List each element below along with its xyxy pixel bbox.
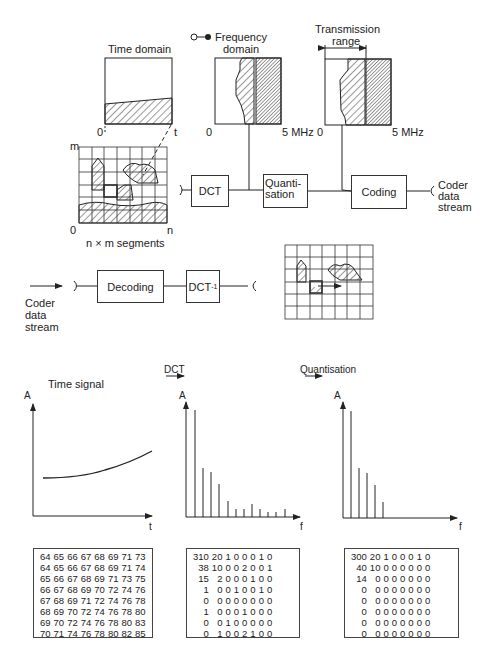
transmission-xend: 5 MHz [392,126,424,138]
matrix-cell: 65 [51,562,65,573]
matrix-cell: 0 [264,606,272,617]
matrix-cell: 0 [231,606,239,617]
matrix-cell: 0 [422,584,430,595]
matrix-cell: 80 [105,628,119,639]
matrix-cell: 71 [78,595,92,606]
matrix-cell: 2 [239,628,247,639]
matrix-cell: 0 [389,573,397,584]
quant-arrow-label: Quantisation [300,364,356,376]
matrix-cell: 0 [231,573,239,584]
coder-in-line3: stream [25,321,59,333]
matrix-cell: 0 [222,606,230,617]
matrix-cell: 71 [118,551,132,562]
matrix-cell: 0 [348,628,367,639]
matrix-cell: 0 [247,617,255,628]
matrix-cell: 74 [118,584,132,595]
matrix-row: 140000000 [348,573,430,584]
legend-label-line1: Frequency [215,31,267,43]
matrix-row: 00000000 [348,584,430,595]
matrix-cell: 72 [105,584,119,595]
matrix-cell: 310 [190,551,209,562]
matrix-cell: 74 [78,617,92,628]
matrix-cell: 0 [380,573,388,584]
matrix-cell: 2 [239,562,247,573]
matrix-cell: 0 [264,551,272,562]
matrix-cell: 66 [37,584,51,595]
matrix-cell: 72 [64,617,78,628]
matrix-cell: 0 [422,606,430,617]
transmission-title-line2: range [332,35,360,47]
matrix-cell: 0 [239,584,247,595]
matrix-cell: 70 [51,617,65,628]
freq-x0: 0 [206,126,212,138]
matrix-cell: 0 [405,617,413,628]
matrix-cell: 0 [209,584,223,595]
matrix-cell: 0 [380,606,388,617]
transmission-range-plot [325,45,391,190]
matrix-cell: 76 [105,606,119,617]
matrix-row: 31020100010 [190,551,272,562]
quantised-spectrum-chart [343,402,457,518]
matrix-cell: 68 [78,573,92,584]
matrix-cell: 83 [132,617,146,628]
matrix-cell: 0 [222,573,230,584]
matrix-cell: 0 [247,551,255,562]
matrix-cell: 0 [247,562,255,573]
matrix-cell: 0 [247,584,255,595]
grid-x0: 0 [70,224,76,236]
matrix-cell: 68 [37,606,51,617]
matrix-cell: 10 [367,562,381,573]
matrix-cell: 71 [118,562,132,573]
matrix-cell: 69 [51,606,65,617]
matrix-cell: 0 [405,562,413,573]
matrix-cell: 74 [132,562,146,573]
matrix-cell: 76 [132,584,146,595]
dct-ylabel: A [179,390,186,402]
matrix-cell: 1 [414,551,422,562]
matrix-cell: 0 [422,551,430,562]
freq-xend: 5 MHz [282,126,314,138]
matrix-cell: 0 [397,584,405,595]
matrix-cell: 0 [380,628,388,639]
matrix-cell: 0 [209,606,223,617]
matrix-cell: 0 [380,595,388,606]
matrix-cell: 0 [239,595,247,606]
matrix-cell: 0 [389,584,397,595]
dct-arrow-label: DCT [164,364,185,376]
grid-xend: n [167,224,173,236]
matrix-cell: 0 [405,573,413,584]
matrix-cell: 0 [190,628,209,639]
matrix-cell: 0 [264,628,272,639]
matrix-cell: 67 [64,573,78,584]
time-signal-chart [33,404,152,516]
matrix-cell: 73 [132,551,146,562]
matrix-cell: 0 [367,606,381,617]
matrix-cell: 69 [105,562,119,573]
matrix-cell: 0 [348,595,367,606]
matrix-cell: 0 [397,573,405,584]
inverse-dct-block: DCT-1 [186,270,220,303]
matrix-row: 3810002001 [190,562,272,573]
matrix-cell: 0 [367,628,381,639]
matrix-cell: 0 [231,595,239,606]
matrix-cell: 78 [118,606,132,617]
matrix-cell: 85 [132,628,146,639]
matrix-cell: 68 [91,562,105,573]
matrix-cell: 1 [247,573,255,584]
matrix-row: 00000000 [348,628,430,639]
matrix-cell: 1 [256,584,264,595]
matrix-cell: 14 [348,573,367,584]
matrix-cell: 66 [51,573,65,584]
matrix-row: 30020100010 [348,551,430,562]
matrix-cell: 0 [389,562,397,573]
matrix-cell: 0 [222,628,230,639]
matrix-cell: 78 [91,628,105,639]
matrix-cell: 0 [405,595,413,606]
coder-in-line2: data [25,309,46,321]
matrix-cell: 69 [37,617,51,628]
matrix-cell: 0 [414,628,422,639]
transmission-title-line1: Transmission [315,23,380,35]
time-samples-matrix: 6465666768697173646566676869717465666768… [33,548,153,638]
matrix-cell: 67 [78,551,92,562]
matrix-cell: 0 [367,595,381,606]
